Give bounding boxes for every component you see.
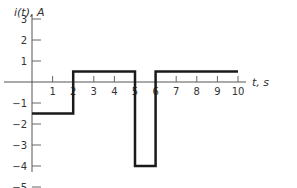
- x-tick-label: 4: [111, 86, 117, 97]
- waveform-line: [32, 72, 238, 167]
- y-tick-label: −2: [12, 119, 27, 130]
- x-axis-title: t, s: [252, 76, 269, 89]
- x-tick-label: 3: [91, 86, 97, 97]
- y-tick-label: −4: [12, 161, 27, 172]
- x-tick-label: 8: [194, 86, 200, 97]
- x-tick-label: 7: [173, 86, 179, 97]
- x-tick-label: 10: [232, 86, 245, 97]
- x-tick-label: 1: [49, 86, 55, 97]
- y-tick-label: −1: [12, 98, 27, 109]
- y-tick-label: 1: [21, 56, 27, 67]
- y-tick-label: 2: [21, 35, 27, 46]
- x-tick-label: 9: [214, 86, 220, 97]
- step-chart: 12345678910321−1−2−3−4−5i(t), At, s: [0, 0, 297, 188]
- y-tick-label: −5: [12, 182, 27, 188]
- y-tick-label: −3: [12, 140, 27, 151]
- y-axis-title: i(t), A: [14, 6, 44, 19]
